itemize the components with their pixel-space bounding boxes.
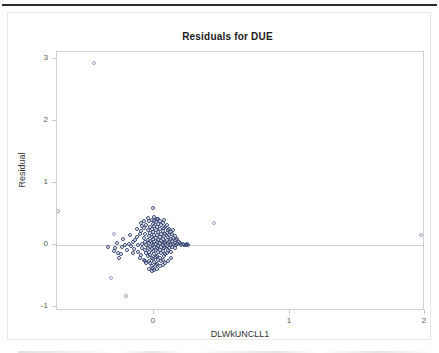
y-tick-mark xyxy=(52,244,56,245)
chart-panel: Residuals for DUE -10123 012 Residual DL… xyxy=(7,12,431,340)
y-tick-mark xyxy=(52,182,56,183)
y-axis-label: Residual xyxy=(17,140,27,200)
scatter-point xyxy=(146,216,150,220)
y-tick-label: 3 xyxy=(24,54,48,62)
scatter-point xyxy=(162,218,166,222)
y-tick-mark xyxy=(52,120,56,121)
scatter-point xyxy=(92,61,96,65)
scatter-point xyxy=(121,237,125,241)
scatter-point xyxy=(131,251,135,255)
scatter-point xyxy=(169,256,173,260)
x-tick-mark xyxy=(424,310,425,314)
scatter-point xyxy=(125,248,129,252)
y-tick-label: 0 xyxy=(24,240,48,248)
scatter-point xyxy=(109,276,113,280)
scatter-point xyxy=(124,294,128,298)
scatter-point xyxy=(112,232,116,236)
scatter-point xyxy=(56,209,60,213)
scatter-point xyxy=(135,227,139,231)
scatter-point xyxy=(106,245,110,249)
page-top-rule xyxy=(2,4,437,6)
y-tick-label: 2 xyxy=(24,116,48,124)
scatter-point xyxy=(150,269,154,273)
y-tick-label: 1 xyxy=(24,178,48,186)
scatter-point xyxy=(128,233,132,237)
scatter-point xyxy=(171,228,175,232)
scatter-point xyxy=(119,252,123,256)
y-tick-label: -1 xyxy=(24,302,48,310)
scatter-point xyxy=(115,241,119,245)
x-tick-mark xyxy=(289,310,290,314)
scatter-point xyxy=(169,250,173,254)
scatter-point xyxy=(419,233,423,237)
scatter-point xyxy=(117,256,121,260)
plot-area xyxy=(56,51,424,310)
x-axis-label: DLWkUNCLL1 xyxy=(56,329,424,339)
scatter-point xyxy=(142,219,146,223)
x-tick-label: 1 xyxy=(277,317,301,325)
y-tick-mark xyxy=(52,306,56,307)
y-tick-mark xyxy=(52,58,56,59)
zero-reference-line xyxy=(57,245,424,246)
x-tick-mark xyxy=(153,310,154,314)
scatter-point xyxy=(212,221,216,225)
x-tick-label: 2 xyxy=(412,317,436,325)
scatter-point xyxy=(186,243,190,247)
scatter-point xyxy=(138,256,142,260)
x-tick-label: 0 xyxy=(141,317,165,325)
chart-title: Residuals for DUE xyxy=(8,31,439,42)
scatter-point xyxy=(151,206,155,210)
